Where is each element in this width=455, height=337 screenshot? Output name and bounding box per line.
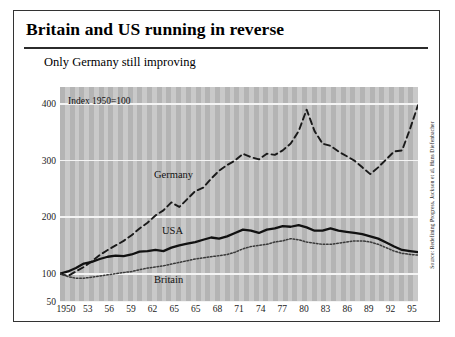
series-label-britain: Britain	[154, 274, 183, 285]
x-tick-label: 62	[148, 304, 158, 314]
plot-area	[60, 87, 418, 302]
source-text: Source: Redefining Progress, Jackson et …	[429, 121, 435, 268]
y-tick-label: 100	[16, 269, 56, 279]
y-tick-label: 300	[16, 156, 56, 166]
x-tick-label: 74	[256, 304, 266, 314]
series-label-usa: USA	[162, 225, 183, 236]
x-tick-label: 86	[342, 304, 352, 314]
x-tick-label: 1950	[57, 304, 76, 314]
series-label-germany: Germany	[154, 169, 193, 180]
y-tick-label: 200	[16, 212, 56, 222]
x-tick-label: 68	[213, 304, 223, 314]
x-tick-label: 65	[169, 304, 179, 314]
index-note: Index 1950=100	[68, 96, 131, 106]
series-lines	[60, 87, 418, 302]
x-tick-label: 71	[234, 304, 244, 314]
x-tick-label: 59	[126, 304, 136, 314]
y-tick-label: 400	[16, 99, 56, 109]
x-tick-label: 80	[299, 304, 309, 314]
plot-canvas	[60, 87, 418, 302]
chart-subtitle: Only Germany still improving	[44, 55, 196, 70]
x-tick-label: 56	[105, 304, 115, 314]
y-tick-label: 50	[16, 297, 56, 307]
x-tick-label: 89	[364, 304, 374, 314]
x-axis: 195053565962656568717477808386899295	[60, 304, 418, 320]
x-tick-label: 53	[83, 304, 93, 314]
x-tick-label: 65	[191, 304, 201, 314]
figure-panel: Britain and US running in reverse Only G…	[13, 10, 440, 322]
x-tick-label: 95	[407, 304, 417, 314]
series-line-britain	[60, 239, 418, 279]
page-title: Britain and US running in reverse	[26, 19, 284, 40]
x-tick-label: 83	[321, 304, 331, 314]
x-tick-label: 77	[278, 304, 288, 314]
y-axis: 50100200300400	[14, 87, 56, 302]
source-note: Source: Redefining Progress, Jackson et …	[425, 89, 439, 301]
title-divider	[24, 47, 428, 49]
series-line-usa	[60, 225, 418, 274]
x-tick-label: 92	[386, 304, 396, 314]
